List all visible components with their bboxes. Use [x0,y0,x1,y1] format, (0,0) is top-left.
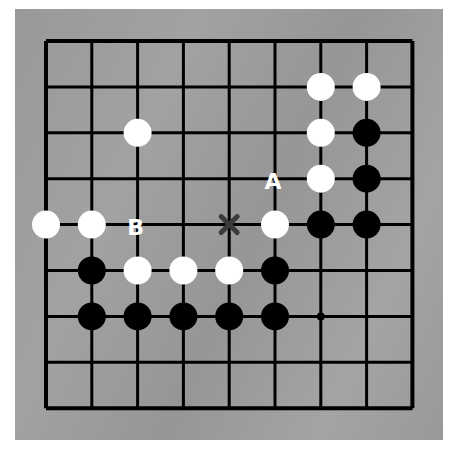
white-stone[interactable] [215,257,243,285]
white-stone[interactable] [169,257,197,285]
black-stone[interactable] [307,211,335,239]
black-stone[interactable] [78,257,106,285]
white-stone[interactable] [307,119,335,147]
white-stone[interactable] [261,211,289,239]
white-stone[interactable] [124,119,152,147]
go-board-grid: AB [0,0,461,457]
black-stone[interactable] [124,302,152,330]
white-stone[interactable] [353,73,381,101]
white-stone[interactable] [78,211,106,239]
star-point [317,312,325,320]
black-stone[interactable] [78,302,106,330]
black-stone[interactable] [353,165,381,193]
black-stone[interactable] [353,119,381,147]
point-label-b: B [127,215,144,240]
point-label-a: A [264,169,281,194]
white-stone[interactable] [307,73,335,101]
black-stone[interactable] [261,302,289,330]
black-stone[interactable] [261,257,289,285]
black-stone[interactable] [169,302,197,330]
black-stone[interactable] [215,302,243,330]
white-stone[interactable] [124,257,152,285]
black-stone[interactable] [353,211,381,239]
white-stone[interactable] [307,165,335,193]
white-stone[interactable] [32,211,60,239]
